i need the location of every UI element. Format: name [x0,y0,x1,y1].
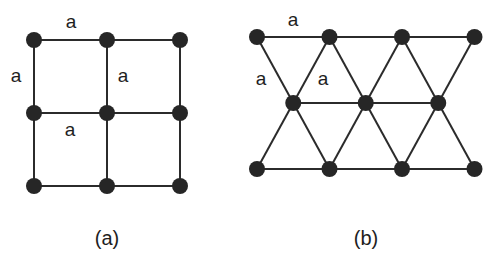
lattice-site [467,29,483,45]
lattice-figure: a a a a (a) a a a (b) [0,0,495,259]
lattice-site [394,29,410,45]
lattice-site [249,161,265,177]
lattice-bond [366,37,402,103]
lattice-site [26,105,42,121]
lattice-site [26,32,42,48]
lattice-bond [402,103,438,169]
lattice-site [172,105,188,121]
lattice-site [285,95,301,111]
lattice-site [99,178,115,194]
lattice-bond [402,37,438,103]
edge-label-top: a [288,9,299,30]
triangular-lattice-panel [249,29,483,177]
lattice-site [467,161,483,177]
lattice-bond [293,103,329,169]
lattice-site [358,95,374,111]
edge-label-bottom: a [65,119,76,140]
lattice-bond [438,37,474,103]
lattice-site [26,178,42,194]
lattice-bond [438,103,474,169]
edge-label-left: a [11,65,22,86]
lattice-bond [366,103,402,169]
edge-label-top: a [66,11,77,32]
lattice-site [99,105,115,121]
caption-a: (a) [95,227,119,249]
lattice-site [322,161,338,177]
lattice-bond [330,37,366,103]
lattice-bond [257,103,293,169]
lattice-site [394,161,410,177]
lattice-site [430,95,446,111]
lattice-site [322,29,338,45]
lattice-site [172,178,188,194]
edge-label-left-diagonal: a [256,68,267,89]
lattice-site [172,32,188,48]
lattice-bond [330,103,366,169]
edge-label-middle: a [118,65,129,86]
lattice-site [99,32,115,48]
caption-b: (b) [354,227,378,249]
square-lattice-panel [26,32,188,194]
edge-label-right-diagonal: a [318,68,329,89]
lattice-site [249,29,265,45]
